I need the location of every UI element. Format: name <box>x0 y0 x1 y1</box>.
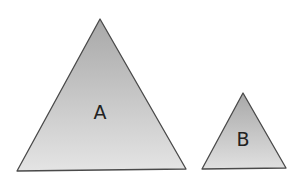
triangle-a <box>17 19 186 171</box>
triangle-b-label: B <box>236 128 249 150</box>
triangle-a-label: A <box>94 101 107 123</box>
triangle-diagram: A B <box>0 0 305 179</box>
